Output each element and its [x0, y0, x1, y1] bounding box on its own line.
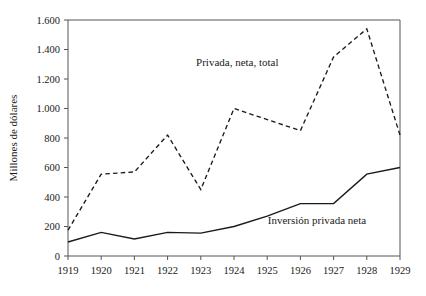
x-tick-label: 1919: [58, 265, 79, 276]
series-label-inversion-privada-neta: Inversión privada neta: [268, 214, 366, 226]
x-axis-ticks: 1919192019211922192319241925192619271928…: [58, 256, 411, 276]
chart-container: 02004006008001.0001.2001.4001.600 191919…: [0, 0, 426, 296]
line-chart: 02004006008001.0001.2001.4001.600 191919…: [0, 0, 426, 296]
y-tick-label: 400: [44, 192, 60, 203]
x-tick-label: 1924: [224, 265, 246, 276]
x-tick-label: 1925: [257, 265, 278, 276]
y-tick-label: 1.400: [36, 44, 60, 55]
y-tick-label: 1.000: [36, 103, 60, 114]
y-tick-label: 0: [55, 251, 60, 262]
y-tick-label: 1.600: [36, 15, 60, 26]
series-line-inversion-privada-neta: [68, 168, 400, 242]
x-tick-label: 1920: [91, 265, 112, 276]
y-tick-label: 800: [44, 133, 60, 144]
x-tick-label: 1922: [157, 265, 178, 276]
y-tick-label: 200: [44, 221, 60, 232]
x-tick-label: 1929: [390, 265, 411, 276]
x-tick-label: 1927: [323, 265, 344, 276]
y-tick-label: 1.200: [36, 74, 60, 85]
x-tick-label: 1923: [190, 265, 211, 276]
x-tick-label: 1926: [290, 265, 311, 276]
y-tick-label: 600: [44, 162, 60, 173]
series-label-privada-neta-total: Privada, neta, total: [196, 56, 278, 68]
y-axis-title: Millones de dólares: [7, 95, 19, 182]
y-axis-ticks: 02004006008001.0001.2001.4001.600: [36, 15, 68, 262]
x-tick-label: 1928: [356, 265, 377, 276]
x-tick-label: 1921: [124, 265, 145, 276]
